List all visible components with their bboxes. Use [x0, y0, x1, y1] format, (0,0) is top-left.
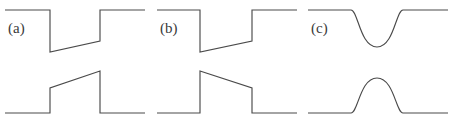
panel-b-lower-trace: [157, 71, 297, 113]
panel-c-upper-trace: [308, 10, 448, 47]
panel-a-label: (a): [8, 21, 25, 36]
panel-b: (b): [151, 0, 302, 122]
panel-c-waveforms: [302, 0, 453, 122]
panel-b-waveforms: [151, 0, 302, 122]
panel-a: (a): [0, 0, 151, 122]
panel-a-waveforms: [0, 0, 151, 122]
panel-b-label: (b): [160, 21, 178, 36]
panel-b-upper-trace: [157, 10, 297, 52]
panel-c-lower-trace: [308, 78, 448, 113]
panel-a-lower-trace: [5, 71, 145, 113]
waveform-figure: (a) (b) (c): [0, 0, 453, 122]
panel-a-upper-trace: [5, 10, 145, 52]
panel-c: (c): [302, 0, 453, 122]
panel-c-label: (c): [311, 21, 328, 36]
